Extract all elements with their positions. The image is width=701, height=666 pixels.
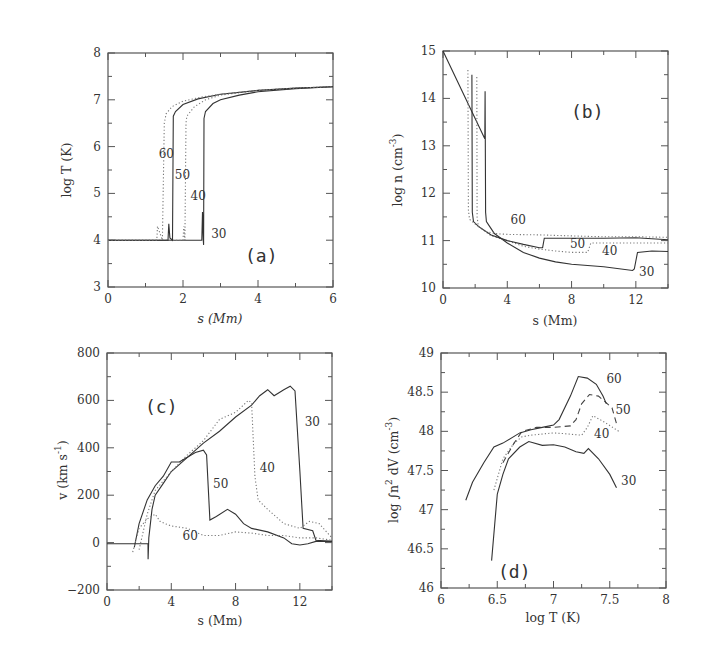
y-tick-label: 0 bbox=[92, 536, 100, 550]
panel-c-y-axis-label-main: v (km s bbox=[55, 454, 70, 501]
panel-d-y-tick-labels: 4646.54747.54848.549 bbox=[407, 346, 434, 595]
panel-c-x-axis-label: s (Mm) bbox=[198, 613, 243, 628]
y-tick-label: 10 bbox=[421, 281, 436, 295]
panel-c-velocity: 04812 −2000200400600800 30405060 (c) s (… bbox=[53, 346, 332, 628]
panel-a-series bbox=[108, 87, 333, 245]
panel-c-y-axis-label: v (km s-1) bbox=[53, 440, 70, 500]
panel-a-temperature: 0246 345678 60504030 (a) s (Mm) log T (K… bbox=[59, 46, 337, 326]
x-tick-label: 4 bbox=[254, 292, 262, 306]
y-tick-label: −200 bbox=[67, 583, 100, 597]
series-line-50 bbox=[134, 450, 332, 547]
series-annotation-40: 40 bbox=[260, 461, 275, 475]
x-tick-label: 8 bbox=[568, 293, 576, 307]
figure: 0246 345678 60504030 (a) s (Mm) log T (K… bbox=[0, 0, 701, 666]
y-tick-label: 12 bbox=[421, 186, 436, 200]
panel-b-y-axis-label-main: log n (cm bbox=[390, 147, 405, 206]
y-tick-label: 15 bbox=[421, 44, 436, 58]
series-line-60 bbox=[108, 87, 333, 241]
series-annotation-40: 40 bbox=[191, 189, 206, 203]
panel-c-label: (c) bbox=[145, 396, 178, 417]
panel-d-label: (d) bbox=[498, 561, 531, 582]
panel-b-y-axis-label-sup: -3 bbox=[388, 138, 398, 147]
panel-a-x-axis-label: s (Mm) bbox=[198, 311, 243, 326]
panel-a-y-tick-labels: 345678 bbox=[93, 46, 101, 294]
panel-d-frame bbox=[441, 353, 666, 588]
x-tick-label: 12 bbox=[628, 293, 643, 307]
y-tick-label: 400 bbox=[77, 441, 100, 455]
y-tick-label: 48 bbox=[419, 424, 434, 438]
panel-c-y-axis-label-close: ) bbox=[55, 440, 70, 445]
y-tick-label: 4 bbox=[93, 233, 101, 247]
y-tick-label: 800 bbox=[77, 346, 100, 360]
panel-d-series bbox=[466, 377, 619, 561]
panel-d-y-axis-label-main: log ∫n bbox=[386, 485, 401, 523]
series-annotation-30: 30 bbox=[639, 265, 654, 279]
y-tick-label: 47 bbox=[419, 503, 434, 517]
y-tick-label: 7 bbox=[93, 93, 101, 107]
series-annotation-50: 50 bbox=[213, 477, 228, 491]
series-line-40 bbox=[108, 87, 333, 241]
panel-b-y-axis-label-close: ) bbox=[390, 134, 405, 139]
panel-d-y-axis-label-mid: dV (cm bbox=[386, 430, 401, 479]
panel-d-y-axis-label: log ∫n2 dV (cm-3) bbox=[384, 417, 401, 523]
panel-d-annotations: 60504030 bbox=[594, 372, 636, 488]
panel-d-y-axis-label-close: ) bbox=[386, 417, 401, 422]
x-tick-label: 8 bbox=[232, 595, 240, 609]
y-tick-label: 3 bbox=[93, 280, 101, 294]
x-tick-label: 2 bbox=[179, 292, 187, 306]
y-tick-label: 8 bbox=[93, 46, 101, 60]
panel-b-density: 04812 101112131415 60504030 (b) s (Mm) l… bbox=[388, 44, 668, 328]
y-tick-label: 49 bbox=[419, 346, 434, 360]
series-annotation-50: 50 bbox=[570, 237, 585, 251]
series-line-30 bbox=[492, 442, 617, 561]
y-tick-label: 13 bbox=[421, 139, 436, 153]
x-tick-label: 12 bbox=[292, 595, 307, 609]
series-annotation-30: 30 bbox=[621, 474, 636, 488]
series-annotation-30: 30 bbox=[305, 415, 320, 429]
panel-c-x-tick-labels: 04812 bbox=[103, 595, 307, 609]
panel-b-series bbox=[443, 51, 668, 271]
panel-c-y-tick-labels: −2000200400600800 bbox=[67, 346, 100, 597]
series-annotation-40: 40 bbox=[594, 427, 609, 441]
panel-b-x-axis-label: s (Mm) bbox=[533, 313, 578, 328]
x-tick-label: 7.5 bbox=[600, 593, 619, 607]
y-tick-label: 46 bbox=[419, 581, 434, 595]
panel-b-y-tick-labels: 101112131415 bbox=[421, 44, 437, 295]
panel-a-x-tick-labels: 0246 bbox=[104, 292, 337, 306]
y-tick-label: 6 bbox=[93, 140, 101, 154]
series-annotation-60: 60 bbox=[606, 372, 621, 386]
series-line-30 bbox=[107, 386, 332, 559]
x-tick-label: 4 bbox=[503, 293, 511, 307]
series-annotation-30: 30 bbox=[211, 227, 226, 241]
series-line-30 bbox=[108, 87, 333, 245]
panel-d-y-axis-label-sup2: -3 bbox=[384, 422, 394, 431]
y-tick-label: 11 bbox=[421, 234, 436, 248]
panel-b-label: (b) bbox=[571, 101, 604, 122]
series-annotation-60: 60 bbox=[511, 213, 526, 227]
x-tick-label: 7 bbox=[550, 593, 558, 607]
y-tick-label: 200 bbox=[77, 488, 100, 502]
series-line-50 bbox=[108, 87, 333, 241]
panel-c-ticks bbox=[107, 353, 332, 590]
x-tick-label: 6 bbox=[329, 292, 337, 306]
series-line-60 bbox=[466, 377, 607, 501]
y-tick-label: 46.5 bbox=[407, 542, 434, 556]
panel-c-y-axis-label-sup: -1 bbox=[53, 445, 63, 454]
y-tick-label: 5 bbox=[93, 186, 101, 200]
series-annotation-60: 60 bbox=[183, 529, 198, 543]
series-annotation-40: 40 bbox=[602, 244, 617, 258]
y-tick-label: 14 bbox=[421, 91, 437, 105]
x-tick-label: 0 bbox=[439, 293, 447, 307]
series-annotation-60: 60 bbox=[159, 147, 174, 161]
x-tick-label: 4 bbox=[167, 595, 175, 609]
panel-c-frame bbox=[107, 353, 332, 590]
x-tick-label: 0 bbox=[103, 595, 111, 609]
panel-a-x-axis-label-text: s (Mm) bbox=[198, 311, 243, 326]
panel-d-ticks bbox=[441, 353, 666, 588]
series-line-50 bbox=[472, 75, 668, 248]
x-tick-label: 6.5 bbox=[488, 593, 507, 607]
panel-d-x-tick-labels: 66.577.58 bbox=[437, 593, 670, 607]
panel-c-annotations: 30405060 bbox=[183, 415, 320, 543]
x-tick-label: 6 bbox=[437, 593, 445, 607]
panel-c-series bbox=[107, 386, 332, 559]
